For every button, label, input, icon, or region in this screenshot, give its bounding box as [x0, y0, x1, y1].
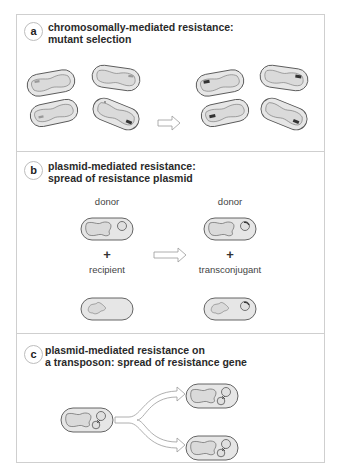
arrow-right-icon [154, 248, 186, 262]
panel-b: b plasmid-mediated resistance: spread of… [17, 151, 324, 333]
arrow-right-icon [158, 116, 180, 130]
cell-after-3 [199, 97, 251, 128]
cell-before-1 [25, 68, 76, 98]
cell-donor-right [204, 218, 256, 240]
cell-target-top [186, 384, 238, 408]
cell-donor-left [81, 218, 133, 240]
cell-transconjugant [204, 298, 256, 320]
panel-b-illustration [17, 152, 326, 334]
cell-recipient [81, 298, 133, 320]
cell-after-2 [259, 64, 310, 92]
cell-after-4 [258, 95, 311, 133]
cell-target-bottom [186, 436, 238, 460]
cell-before-4-mutant [90, 95, 143, 133]
cell-source [61, 408, 113, 432]
cell-before-2 [91, 64, 142, 92]
panel-a: a chromosomally-mediated resistance: mut… [17, 15, 324, 151]
panel-c-illustration [17, 334, 326, 465]
figure-frame: a chromosomally-mediated resistance: mut… [16, 14, 325, 463]
cell-after-1 [194, 68, 245, 98]
panel-a-illustration [17, 15, 326, 151]
panel-c: c plasmid-mediated resistance on a trans… [17, 333, 324, 464]
cell-before-3 [28, 97, 80, 128]
branching-arrow-icon [115, 387, 185, 452]
